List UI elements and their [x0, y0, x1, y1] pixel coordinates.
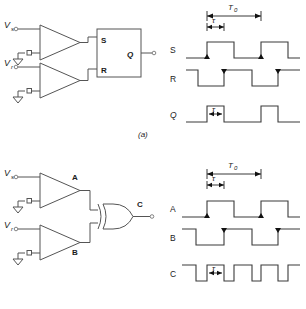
trace-q: Q τ — [170, 105, 300, 122]
latch-label-q: Q — [127, 50, 134, 59]
input-terminal-vr — [14, 65, 18, 69]
output-label-c: C — [137, 200, 143, 209]
trace-r: R — [170, 69, 300, 86]
input-label-vs-sub: s — [11, 174, 14, 180]
node-label-b: B — [72, 248, 78, 257]
ground-symbol-icon — [13, 59, 23, 65]
period-dimension-t0: T 0 — [207, 3, 261, 21]
trace-c-waveform — [182, 265, 300, 281]
inverting-input-marker — [27, 51, 32, 56]
panel-b-svg: V s V r A B C T 0 — [0, 155, 306, 309]
trace-label-s: S — [170, 45, 176, 55]
input-terminal-vr — [14, 227, 18, 231]
panel-b-timing: T 0 τ A B — [170, 161, 300, 281]
trace-label-b: B — [170, 233, 176, 243]
input-terminal-vs — [14, 175, 18, 179]
rising-edge-arrow-up — [204, 54, 210, 59]
trace-s: S — [170, 42, 300, 59]
xor-gate-icon — [103, 204, 133, 229]
ground-symbol-icon — [13, 97, 23, 103]
comparator-bottom — [13, 223, 98, 265]
falling-edge-arrow-down — [221, 228, 227, 233]
trace-c: C τ — [170, 264, 300, 281]
input-label-vs: V — [4, 20, 11, 30]
rising-edge-arrow-up — [204, 213, 210, 218]
xor-gate-extra-input-arc — [98, 204, 101, 229]
rising-edge-arrow-up — [258, 54, 264, 59]
trace-b-waveform — [182, 229, 300, 245]
ground-symbol-icon — [13, 259, 23, 265]
panel-a-svg: V s V r S R Q T 0 — [0, 0, 306, 154]
period-label-sub: 0 — [234, 7, 238, 13]
trace-a: A — [170, 201, 300, 218]
falling-edge-arrow-down — [221, 69, 227, 74]
rising-edge-arrow-up — [258, 213, 264, 218]
period-arrow-right — [255, 172, 261, 177]
inverting-input-marker — [27, 89, 32, 94]
pulse-arrow-left — [207, 25, 212, 29]
pulse-dimension-tau: τ — [207, 16, 224, 31]
panel-b-circuit: V s V r A B C — [4, 168, 154, 265]
trace-s-waveform — [186, 42, 300, 58]
comparator-top — [13, 25, 97, 65]
c-pulse-arrow-right — [217, 271, 222, 275]
trace-label-q: Q — [170, 110, 177, 120]
comparator-triangle-icon — [40, 63, 80, 98]
ground-symbol-icon — [13, 207, 23, 213]
input-label-vs: V — [4, 168, 11, 178]
figure-panel-b: V s V r A B C T 0 — [0, 155, 306, 309]
node-label-a: A — [72, 173, 78, 182]
output-terminal-c — [150, 215, 154, 219]
comparator-triangle-icon — [40, 25, 80, 60]
period-label-sub: 0 — [234, 165, 238, 171]
trace-label-c: C — [170, 269, 176, 279]
input-label-vr: V — [4, 220, 11, 230]
pulse-arrow-left — [207, 183, 212, 187]
input-terminal-vs — [14, 27, 18, 31]
xor-gate — [98, 204, 154, 229]
trace-a-waveform — [182, 201, 300, 217]
input-label-vr: V — [4, 58, 11, 68]
inverting-input-marker — [27, 199, 32, 204]
period-dimension-t0: T 0 — [207, 161, 261, 179]
pulse-label: τ — [212, 16, 216, 25]
trace-label-r: R — [170, 74, 176, 84]
comparator-bottom — [13, 63, 97, 103]
panel-a-circuit: V s V r S R Q — [4, 20, 156, 103]
inverting-input-marker — [27, 251, 32, 256]
trace-q-waveform — [186, 106, 300, 122]
input-label-vr-sub: r — [11, 64, 14, 70]
pulse-arrow-right — [219, 25, 224, 29]
trace-b: B — [170, 228, 300, 245]
pulse-arrow-right — [219, 183, 224, 187]
comparator-top — [13, 173, 98, 213]
pulse-dimension-tau: τ — [207, 174, 224, 189]
trace-r-waveform — [186, 70, 300, 86]
latch-label-s: S — [101, 36, 107, 45]
input-label-vr-sub: r — [11, 226, 14, 232]
caption-a: (a) — [138, 130, 148, 139]
q-pulse-arrow-right — [217, 112, 222, 116]
input-label-vs-sub: s — [11, 26, 14, 32]
latch-label-r: R — [101, 66, 107, 75]
figure-panel-a: V s V r S R Q T 0 — [0, 0, 306, 154]
panel-a-timing: T 0 τ S R — [170, 3, 300, 122]
pulse-label: τ — [212, 174, 216, 183]
period-arrow-right — [255, 14, 261, 19]
falling-edge-arrow-down — [275, 69, 281, 74]
trace-label-a: A — [170, 204, 176, 214]
falling-edge-arrow-down — [275, 228, 281, 233]
output-terminal-q — [152, 51, 156, 55]
